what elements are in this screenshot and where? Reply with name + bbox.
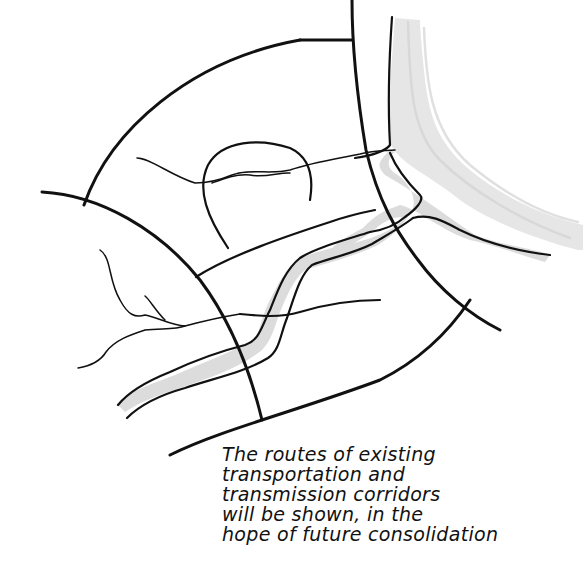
- river-outline: [118, 17, 550, 418]
- caption-note: The routes of existing transportation an…: [222, 444, 562, 544]
- caption-line: transportation and: [222, 464, 562, 484]
- caption-line: hope of future consolidation: [222, 524, 562, 544]
- south-arc-boundary: [170, 300, 470, 455]
- caption-line: transmission corridors: [222, 484, 562, 504]
- dome-district: [203, 142, 311, 248]
- outer-arc-boundary: [84, 40, 300, 205]
- coastline-shading: [389, 18, 583, 250]
- caption-line: will be shown, in the: [222, 504, 562, 524]
- caption-line: The routes of existing: [222, 444, 562, 464]
- transmission-corridor: [137, 150, 395, 183]
